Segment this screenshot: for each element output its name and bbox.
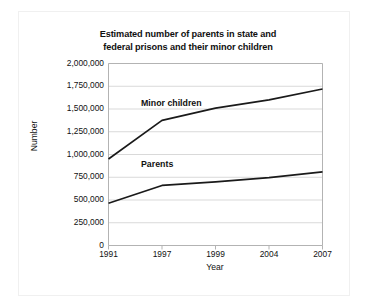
x-tick-label: 1999 [206, 249, 225, 259]
x-tick-label: 2004 [260, 249, 279, 259]
series-line-parents [109, 172, 323, 203]
series-label-minor-children: Minor children [140, 98, 203, 108]
plot-area [0, 0, 368, 306]
x-tick-label: 1991 [99, 249, 118, 259]
x-tick-label: 1997 [153, 249, 172, 259]
line-chart: Estimated number of parents in state and… [0, 0, 368, 306]
gridlines [109, 64, 323, 223]
x-tick-label: 2007 [313, 249, 332, 259]
series-label-parents: Parents [140, 159, 174, 169]
